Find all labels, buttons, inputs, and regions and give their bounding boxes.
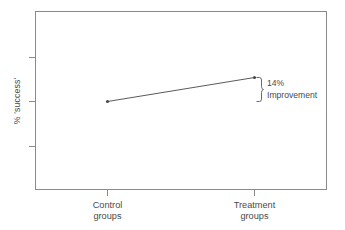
chart-svg: % 'success' Control groups Treatment gro… [0,0,345,230]
x-tick-label-control-line1: Control [93,200,123,210]
improvement-caption-label: Improvement [267,90,318,100]
x-tick-label-treatment-line1: Treatment [234,200,276,210]
data-point-control [106,100,109,103]
x-tick-label-treatment-line2: groups [240,211,268,221]
data-point-treatment [253,76,256,79]
x-tick-label-control-line2: groups [93,211,121,221]
chart-figure: % 'success' Control groups Treatment gro… [0,0,345,230]
y-axis-label: % 'success' [12,78,22,125]
y-axis-ticks [29,58,36,147]
improvement-percent-label: 14% [267,78,285,88]
x-axis-ticks [108,190,255,197]
plot-frame [36,12,327,190]
